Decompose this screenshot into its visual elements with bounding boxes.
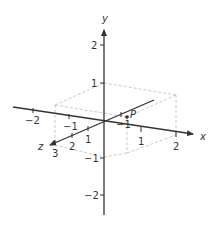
x-tick-neg2: −2 [25, 115, 40, 126]
y-tick-neg2: −2 [84, 190, 99, 201]
coordinate-diagram: y x z 2 1 −1 −2 −2 −1 1 2 1 2 3 −1 P [0, 0, 220, 227]
near-point-x-neg1: −1 [116, 119, 131, 130]
x-tick-2: 2 [173, 141, 179, 152]
x-tick-neg1: −1 [63, 121, 78, 132]
x-axis-label: x [199, 131, 206, 142]
y-axis-label: y [101, 13, 109, 24]
y-tick-neg1: −1 [84, 153, 99, 164]
z-tick-3: 3 [52, 148, 58, 159]
z-axis-label: z [37, 141, 44, 152]
y-tick-1: 1 [91, 78, 97, 89]
axes-svg: y x z 2 1 −1 −2 −2 −1 1 2 1 2 3 −1 P [0, 0, 220, 227]
z-tick-2: 2 [69, 141, 75, 152]
z-tick-1: 1 [85, 134, 91, 145]
point-p-label: P [130, 109, 137, 120]
x-tick-1: 1 [138, 136, 144, 147]
y-tick-2: 2 [91, 40, 97, 51]
